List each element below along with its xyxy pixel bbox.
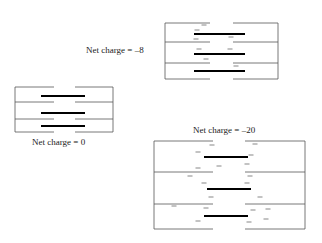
panel-net-charge-minus-8: Net charge = –8: [86, 23, 278, 79]
layer-charge-diagram: Net charge = –8Net charge = 0Net charge …: [0, 0, 322, 243]
net-charge-label: Net charge = –8: [86, 45, 144, 55]
net-charge-label: Net charge = 0: [32, 137, 86, 147]
panel-net-charge-0: Net charge = 0: [15, 87, 113, 147]
panel-net-charge-minus-20: Net charge = –20: [154, 125, 305, 229]
net-charge-label: Net charge = –20: [193, 125, 256, 135]
